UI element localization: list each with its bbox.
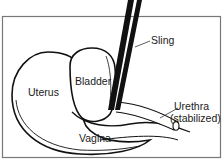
urethra-label: Urethra [174,100,209,112]
anatomy-diagram [0,0,224,164]
sling-leader [135,41,150,47]
vagina-lower-line [100,136,178,140]
sling-label: Sling [151,34,174,46]
vagina-label: Vagina [79,132,111,144]
urethra-note-label: (stabilized) [170,112,221,124]
urethra-tube [116,102,178,130]
uterus-label: Uterus [28,86,59,98]
bladder-label: Bladder [75,75,111,87]
